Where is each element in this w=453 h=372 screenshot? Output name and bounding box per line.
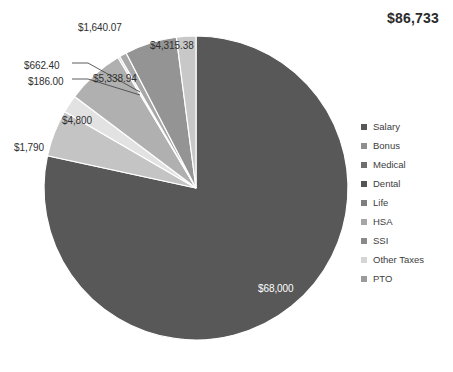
legend-item-label: Salary (373, 122, 400, 132)
legend-item-label: Life (373, 198, 388, 208)
legend-item[interactable]: Medical (361, 155, 447, 174)
pie-data-label: $4,800 (62, 115, 92, 126)
legend-swatch-icon (361, 200, 367, 206)
legend-swatch-icon (361, 181, 367, 187)
legend-item-label: Dental (373, 179, 400, 189)
legend-item-label: Medical (373, 160, 406, 170)
legend-item[interactable]: HSA (361, 212, 447, 231)
legend-swatch-icon (361, 276, 367, 282)
legend-item-label: Other Taxes (373, 255, 424, 265)
legend-item-label: PTO (373, 274, 392, 284)
legend-item-label: HSA (373, 217, 393, 227)
pie-data-label: $186.00 (28, 76, 63, 87)
legend-item-label: Bonus (373, 141, 400, 151)
legend-item-label: SSI (373, 236, 388, 246)
legend-item[interactable]: Other Taxes (361, 250, 447, 269)
legend-item[interactable]: Bonus (361, 136, 447, 155)
pie-data-label: $5,338.94 (93, 73, 137, 84)
legend-swatch-icon (361, 124, 367, 130)
pie-slices-group (44, 36, 348, 340)
legend-swatch-icon (361, 238, 367, 244)
legend-item[interactable]: SSI (361, 231, 447, 250)
pie-data-label: $1,640.07 (78, 22, 122, 33)
pie-data-label: $68,000 (258, 283, 293, 294)
pie-data-label: $1,790 (14, 142, 44, 153)
pie-data-label: $4,315.38 (150, 40, 194, 51)
legend-swatch-icon (361, 162, 367, 168)
legend-swatch-icon (361, 219, 367, 225)
legend-item[interactable]: PTO (361, 269, 447, 288)
legend-swatch-icon (361, 257, 367, 263)
legend-item[interactable]: Salary (361, 117, 447, 136)
pie-chart-container: $86,733 $1,640.07$4,315.38$662.40$186.00… (0, 0, 453, 372)
legend-item[interactable]: Dental (361, 174, 447, 193)
pie-data-label: $662.40 (24, 60, 59, 71)
legend-item[interactable]: Life (361, 193, 447, 212)
legend-swatch-icon (361, 143, 367, 149)
chart-legend: SalaryBonusMedicalDentalLifeHSASSIOther … (361, 117, 447, 288)
